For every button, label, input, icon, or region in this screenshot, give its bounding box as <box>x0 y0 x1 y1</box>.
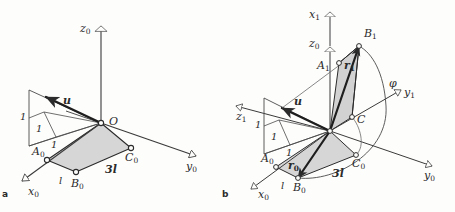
unit-label-z-a: 1 <box>20 112 26 122</box>
point-label-C0-a: C0 <box>125 152 138 164</box>
axis-label-x0-a: x0 <box>28 186 39 198</box>
vector-u-b <box>282 108 330 131</box>
axis-label-y0-b: y0 <box>424 170 435 182</box>
point-marker-B0-a <box>73 169 78 174</box>
vector-label-u-b: u <box>294 96 302 107</box>
vector-label-r1-b: r1 <box>344 60 355 72</box>
vector-label-r0-b: r0 <box>288 160 299 172</box>
plate-rectangle-initial-a <box>47 123 131 172</box>
unit-label-z-b: 1 <box>255 120 261 130</box>
point-marker-A0-a <box>44 157 49 162</box>
point-label-O-a: O <box>109 116 118 127</box>
point-marker-A0-b <box>274 165 279 170</box>
angle-label-phi-b: φ <box>389 78 397 89</box>
point-label-B1-b: B1 <box>364 28 377 40</box>
vector-u-a <box>46 97 101 123</box>
axis-label-z1-b: z1 <box>236 111 247 123</box>
axis-label-z0-b: z0 <box>309 38 320 50</box>
unit-label-y-a: 1 <box>36 124 42 134</box>
unit-label-x-a: 1 <box>51 140 57 150</box>
point-label-B0-b: B0 <box>293 182 306 194</box>
unit-triangle-inner-edge-b <box>279 120 330 131</box>
unit-label-x-b: 1 <box>286 148 292 158</box>
construction-line-u-to-A1 <box>282 64 341 108</box>
dimension-label-3l-a: 3l <box>105 164 117 175</box>
dimension-label-l-a: l <box>59 176 62 186</box>
point-marker-C-b <box>350 115 355 120</box>
point-label-A0-b: A0 <box>261 153 274 165</box>
point-label-B0-a: B0 <box>71 178 84 190</box>
dimension-label-l-b: l <box>281 181 284 191</box>
vector-label-u-a: u <box>63 95 71 106</box>
axis-label-y0-a: y0 <box>186 161 197 173</box>
point-label-C-b: C <box>357 114 365 125</box>
point-label-A0-a: A0 <box>32 146 45 158</box>
point-label-C0-b: C0 <box>352 158 365 170</box>
point-marker-O-b <box>328 129 333 134</box>
panel-a-graphic <box>22 26 196 181</box>
point-marker-B1-b <box>357 44 362 49</box>
point-marker-O-a <box>98 120 103 125</box>
panel-label-b: b <box>222 190 228 199</box>
point-marker-B0-b <box>296 176 301 181</box>
point-marker-C0-a <box>128 145 133 150</box>
panel-label-a: a <box>2 190 8 199</box>
axis-label-x0-b: x0 <box>258 189 269 201</box>
unit-label-y-b: 1 <box>271 132 277 142</box>
axis-label-z0-a: z0 <box>80 23 91 35</box>
point-label-A1-b: A1 <box>317 60 330 72</box>
point-marker-A1-b <box>337 61 342 66</box>
dimension-label-3l-b: 3l <box>332 168 344 179</box>
axis-label-x1-b: x1 <box>309 9 320 21</box>
axis-label-y1-b: y1 <box>404 87 415 99</box>
